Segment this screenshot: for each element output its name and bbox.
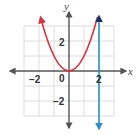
origin-label: 0 xyxy=(59,73,65,84)
x-axis-label: x xyxy=(127,65,133,77)
y-tick-label-neg2: −2 xyxy=(53,96,65,107)
y-tick-label-2: 2 xyxy=(59,37,65,48)
x-tick-label-neg2: −2 xyxy=(29,74,41,85)
x-tick-label-2: 2 xyxy=(96,74,102,85)
coordinate-graph: x y −2 2 0 2 −2 xyxy=(0,0,140,135)
y-axis-label: y xyxy=(63,0,69,12)
